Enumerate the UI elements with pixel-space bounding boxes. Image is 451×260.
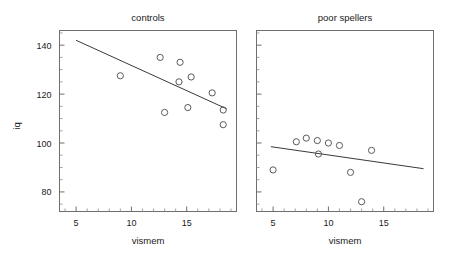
x-tick-label: 10 <box>126 218 136 228</box>
x-tick-label: 5 <box>74 218 79 228</box>
data-point <box>117 73 123 79</box>
x-tick-label: 15 <box>182 218 192 228</box>
regression-line <box>271 147 424 169</box>
x-axis-label: vismem <box>329 235 362 246</box>
y-tick-label: 80 <box>41 187 51 197</box>
x-tick-label: 10 <box>323 218 333 228</box>
panel-title: controls <box>131 12 165 23</box>
data-point <box>220 107 226 113</box>
data-point <box>176 79 182 85</box>
data-point <box>336 142 342 148</box>
x-axis-label: vismem <box>132 235 165 246</box>
y-tick-label: 120 <box>36 90 51 100</box>
x-tick-label: 5 <box>271 218 276 228</box>
panel-controls: controls8010012014051015vismem <box>36 12 236 246</box>
data-point <box>270 167 276 173</box>
panel-title: poor spellers <box>318 12 373 23</box>
data-point <box>358 199 364 205</box>
data-point <box>293 139 299 145</box>
data-point <box>314 137 320 143</box>
panel-poor-spellers: poor spellers51015vismem <box>257 12 434 246</box>
data-point <box>188 74 194 80</box>
panels-group: controls8010012014051015vismempoor spell… <box>36 12 433 246</box>
data-point <box>220 122 226 128</box>
scatter-figure: iq controls8010012014051015vismempoor sp… <box>0 0 451 260</box>
panel-frame <box>60 31 237 212</box>
panel-frame <box>257 31 434 212</box>
data-point <box>161 109 167 115</box>
data-point <box>157 54 163 60</box>
data-point <box>303 135 309 141</box>
x-tick-label: 15 <box>379 218 389 228</box>
data-point <box>185 104 191 110</box>
data-point <box>177 59 183 65</box>
y-axis-label: iq <box>11 122 22 129</box>
regression-line <box>76 40 226 108</box>
data-point <box>347 169 353 175</box>
data-point <box>209 90 215 96</box>
y-tick-label: 140 <box>36 41 51 51</box>
y-tick-label: 100 <box>36 139 51 149</box>
data-point <box>368 147 374 153</box>
data-point <box>325 140 331 146</box>
